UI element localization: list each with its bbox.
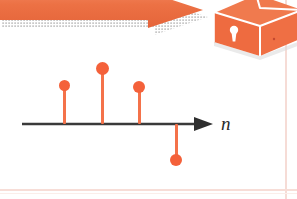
axis-line xyxy=(0,48,297,180)
figure-canvas: n xyxy=(0,0,297,199)
axis-label-n: n xyxy=(221,114,231,133)
stem-dot-2 xyxy=(96,62,109,75)
stem-dot-1 xyxy=(59,80,70,91)
block-arrow-right-icon xyxy=(0,0,216,50)
page-edge-line-bottom xyxy=(0,189,297,191)
stem-dot-4 xyxy=(170,154,182,166)
stem-line-2 xyxy=(101,68,104,124)
page-edge-line-bottom-secondary xyxy=(0,193,297,194)
stem-dot-3 xyxy=(133,81,145,93)
stem-plot: n xyxy=(0,48,297,180)
